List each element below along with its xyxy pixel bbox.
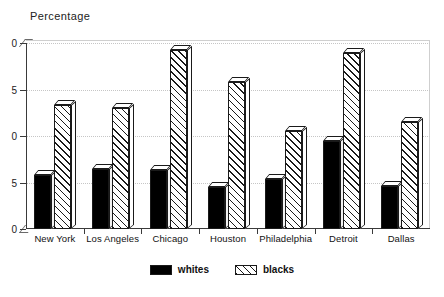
plot-back-top-edge [26,40,430,41]
bar-side-face [71,101,76,229]
bar-front-face [323,141,340,229]
y-tick-label-20: 0 [0,38,17,49]
bar-front-face [208,187,225,229]
x-axis-label-new-york: New York [34,233,75,244]
bar [228,82,245,229]
bar-front-face [343,53,360,229]
y-tick-label-5: 5 [0,177,17,188]
bar-front-face [150,170,167,229]
bar-front-face [170,50,187,229]
y-tick-label-15: 5 [0,84,17,95]
legend-item-blacks[interactable]: blacks [235,264,294,275]
x-tick-mark [372,229,373,234]
bar-front-face [54,105,71,229]
bars-layer [26,43,430,229]
chart-title: Percentage [30,10,90,22]
x-axis-label-philadelphia: Philadelphia [259,233,312,244]
legend-label-whites: whites [178,264,209,275]
legend-swatch-blacks [235,265,257,275]
bar-front-face [265,179,282,229]
bar [323,141,340,229]
x-tick-mark [84,229,85,234]
x-axis-label-dallas: Dallas [388,233,415,244]
bar-side-face [245,78,250,229]
bar [34,175,51,229]
bar-side-face [418,118,423,229]
bar [150,170,167,229]
x-tick-mark [257,229,258,234]
bar-side-face [302,127,307,229]
x-axis-label-los-angeles: Los Angeles [86,233,139,244]
bar-front-face [92,169,109,229]
x-axis-label-houston: Houston [210,233,246,244]
legend-label-blacks: blacks [263,264,294,275]
bar [265,179,282,229]
bar-side-face [129,104,134,229]
x-tick-mark [141,229,142,234]
bar-front-face [285,131,302,229]
bar-front-face [228,82,245,229]
bar-front-face [381,186,398,229]
legend-swatch-whites [150,265,172,275]
y-tick-label-0: 0 [0,224,17,235]
bar-side-face [187,46,192,229]
bar [208,187,225,229]
bar [54,105,71,229]
x-axis-label-chicago: Chicago [153,233,189,244]
bar [285,131,302,229]
x-tick-mark [315,229,316,234]
bar-side-face [360,49,365,229]
x-tick-mark [199,229,200,234]
chart-legend: whitesblacks [0,264,444,275]
bar [112,108,129,229]
bar-front-face [34,175,51,229]
y-tick-mark-0 [20,229,26,230]
bar [92,169,109,229]
x-axis-label-detroit: Detroit [329,233,358,244]
bar [343,53,360,229]
bar [381,186,398,229]
bar-front-face [112,108,129,229]
y-tick-label-10: 0 [0,131,17,142]
bar-chart: Percentage 05050 New YorkLos AngelesChic… [0,0,444,297]
bar [401,122,418,229]
bar [170,50,187,229]
bar-front-face [401,122,418,229]
legend-item-whites[interactable]: whites [150,264,209,275]
